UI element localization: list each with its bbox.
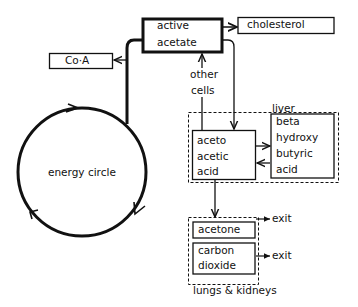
aceto-label-2: acetic — [197, 149, 228, 165]
aceto-label-1: aceto — [197, 133, 226, 149]
cholesterol-label: cholesterol — [247, 17, 305, 33]
other-cells-label-2: cells — [191, 83, 215, 99]
beta-label-2: hydroxy — [276, 130, 318, 146]
beta-label-3: butyric — [276, 146, 313, 162]
active-acetate-label-1: active — [157, 18, 189, 34]
aceto-label-3: acid — [197, 164, 219, 180]
other-cells-label-1: other — [190, 67, 218, 83]
acetone-exit-label: exit — [272, 211, 292, 227]
acetone-label: acetone — [198, 222, 240, 238]
carbon-dioxide-label-2: dioxide — [198, 258, 236, 274]
energy-circle-label: energy circle — [48, 165, 116, 181]
carbon-dioxide-label-1: carbon — [198, 243, 234, 259]
acetate-to-circle-line — [127, 40, 143, 124]
active-acetate-label-2: acetate — [157, 35, 197, 51]
beta-label-4: acid — [276, 162, 298, 178]
co2-exit-label: exit — [272, 248, 292, 264]
arrow-acetate-to-aceto — [223, 40, 234, 129]
coa-label: Co·A — [65, 53, 89, 69]
lungs-kidneys-label: lungs & kidneys — [193, 283, 277, 299]
beta-label-1: beta — [276, 114, 300, 130]
